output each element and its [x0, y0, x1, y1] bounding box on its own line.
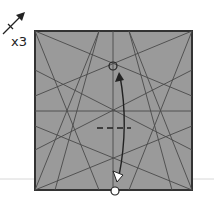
repeat-count-label: x3	[11, 34, 27, 49]
repeat-arrow-icon	[3, 12, 25, 34]
bottom-point-marker	[111, 187, 119, 195]
origami-diagram: x3	[0, 0, 214, 203]
diagram-canvas	[0, 0, 214, 203]
